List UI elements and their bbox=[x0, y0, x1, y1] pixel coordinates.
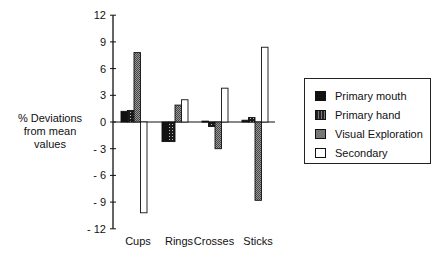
svg-text:- 12: - 12 bbox=[87, 223, 106, 235]
svg-text:3: 3 bbox=[100, 89, 106, 101]
svg-text:Sticks: Sticks bbox=[243, 235, 273, 247]
swatch-icon bbox=[315, 91, 326, 101]
svg-text:- 6: - 6 bbox=[93, 169, 106, 181]
svg-text:6: 6 bbox=[100, 63, 106, 75]
svg-text:- 3: - 3 bbox=[93, 143, 106, 155]
svg-text:9: 9 bbox=[100, 36, 106, 48]
swatch-icon bbox=[315, 110, 326, 120]
legend-item-secondary: Secondary bbox=[315, 143, 430, 162]
svg-text:0: 0 bbox=[100, 116, 106, 128]
legend-item-visual-exploration: Visual Exploration bbox=[315, 124, 430, 143]
legend-item-primary-hand: Primary hand bbox=[315, 105, 430, 124]
swatch-icon bbox=[315, 129, 326, 139]
svg-text:12: 12 bbox=[94, 9, 106, 21]
svg-text:Rings: Rings bbox=[165, 235, 194, 247]
svg-text:- 9: - 9 bbox=[93, 196, 106, 208]
legend-item-primary-mouth: Primary mouth bbox=[315, 86, 430, 105]
svg-text:Crosses: Crosses bbox=[194, 235, 235, 247]
svg-text:Cups: Cups bbox=[125, 235, 151, 247]
bars bbox=[121, 47, 268, 213]
swatch-icon bbox=[315, 148, 326, 158]
legend: Primary mouth Primary hand Visual Explor… bbox=[304, 78, 431, 164]
x-axis-labels: CupsRingsCrossesSticks bbox=[125, 235, 273, 247]
y-axis-title: % Deviations from mean values bbox=[10, 112, 90, 151]
